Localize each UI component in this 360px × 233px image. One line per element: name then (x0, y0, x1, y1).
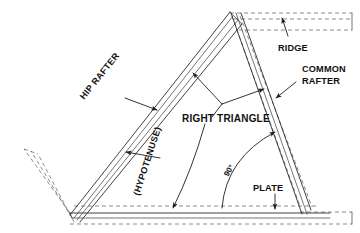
roof-framing-diagram: RIDGE COMMON RAFTER HIP RAFTER (HYPOTENU… (0, 0, 360, 233)
left-plate-dashed-cap (24, 149, 38, 154)
right-triangle-leader-plate (173, 124, 205, 208)
label-hypotenuse: (HYPOTENUSE) (131, 125, 163, 196)
label-common-rafter-line2: RAFTER (302, 76, 340, 86)
label-plate: PLATE (253, 183, 283, 193)
diagram-labels: RIDGE COMMON RAFTER HIP RAFTER (HYPOTENU… (78, 43, 346, 197)
label-common-rafter-line1: COMMON (302, 64, 346, 74)
label-ridge: RIDGE (278, 43, 308, 53)
common-rafter-leader (276, 82, 296, 98)
left-plate-dashed-mid (31, 151, 72, 218)
ridge-leader (282, 18, 288, 36)
right-triangle-leader-common (222, 89, 264, 104)
hip-rafter-leader (125, 98, 157, 110)
label-right-triangle: RIGHT TRIANGLE (182, 113, 270, 124)
right-triangle-leader-hip (193, 73, 222, 104)
label-angle-90: 90° (222, 163, 236, 178)
label-hip-rafter: HIP RAFTER (78, 51, 122, 102)
diagram-canvas: RIDGE COMMON RAFTER HIP RAFTER (HYPOTENU… (0, 0, 360, 233)
plate-member (70, 213, 330, 218)
